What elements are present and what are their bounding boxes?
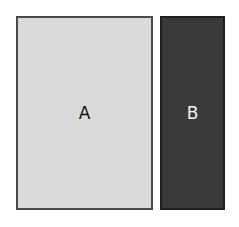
panel-b: B [160,16,225,210]
panel-b-label: B [187,105,199,122]
panel-a: A [16,16,153,210]
panel-a-label: A [79,105,91,122]
